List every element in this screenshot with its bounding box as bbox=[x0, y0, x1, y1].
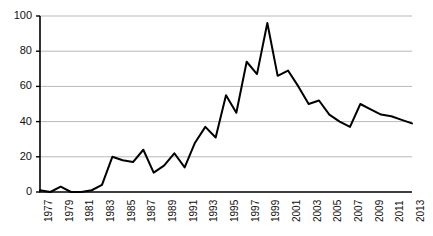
x-axis-tick-label: 1979 bbox=[65, 200, 75, 222]
x-axis-tick-label: 2001 bbox=[292, 200, 302, 222]
x-axis-tick-label: 1983 bbox=[106, 200, 116, 222]
y-axis-tick-label: 80 bbox=[2, 45, 32, 56]
y-axis-tick-label: 60 bbox=[2, 80, 32, 91]
x-axis-tick-label: 1997 bbox=[251, 200, 261, 222]
x-axis-tick-label: 2009 bbox=[375, 200, 385, 222]
x-axis-tick-label: 1977 bbox=[44, 200, 54, 222]
x-axis-tick-label: 2003 bbox=[313, 200, 323, 222]
x-axis-tick-label: 2005 bbox=[333, 200, 343, 222]
x-axis-tick-label: 1989 bbox=[168, 200, 178, 222]
x-axis-tick-label: 1981 bbox=[85, 200, 95, 222]
x-axis-tick-label: 1985 bbox=[127, 200, 137, 222]
y-axis-tick-label: 40 bbox=[2, 116, 32, 127]
x-axis-tick-label: 1991 bbox=[189, 200, 199, 222]
x-axis-tick-label: 2013 bbox=[416, 200, 426, 222]
x-axis-tick-label: 1999 bbox=[271, 200, 281, 222]
x-axis-tick-label: 1993 bbox=[209, 200, 219, 222]
x-axis-tick-label: 2007 bbox=[354, 200, 364, 222]
data-series-line bbox=[40, 23, 412, 192]
x-axis-tick-label: 2011 bbox=[395, 200, 405, 222]
x-axis-tick-label: 1995 bbox=[230, 200, 240, 222]
y-axis-tick-label: 0 bbox=[2, 186, 32, 197]
x-axis-tick-label: 1987 bbox=[147, 200, 157, 222]
chart-axes bbox=[40, 16, 412, 192]
y-axis-tick-label: 100 bbox=[2, 10, 32, 21]
y-axis-tick-label: 20 bbox=[2, 151, 32, 162]
line-chart: 0204060801001977197919811983198519871989… bbox=[0, 0, 433, 236]
